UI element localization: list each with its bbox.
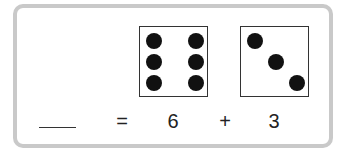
dot: [146, 75, 162, 91]
dot: [268, 54, 284, 70]
equals-sign: =: [116, 111, 128, 131]
dot: [188, 33, 204, 49]
die-six: [139, 26, 208, 97]
dot: [146, 54, 162, 70]
dot: [188, 75, 204, 91]
addend-1: 6: [167, 111, 178, 131]
addend-2: 3: [268, 111, 279, 131]
answer-blank[interactable]: [39, 127, 76, 128]
dot: [247, 33, 263, 49]
plus-sign: +: [219, 111, 231, 131]
dot: [188, 54, 204, 70]
die-three: [240, 26, 309, 97]
dot: [146, 33, 162, 49]
dot: [289, 75, 305, 91]
